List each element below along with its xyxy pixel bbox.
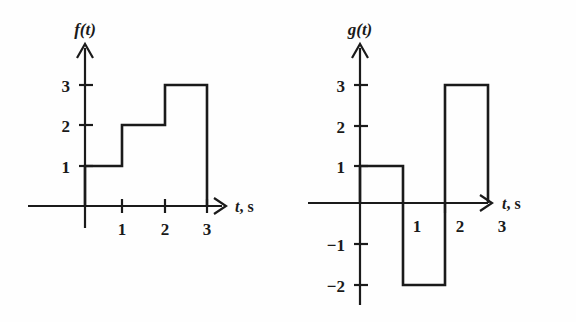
step-curve-f (85, 85, 207, 206)
x-tick-label-3: 3 (203, 220, 212, 239)
y-axis-title-g: g(t) (347, 20, 373, 39)
x-axis-title-f: t, s (235, 198, 254, 215)
x-tick-label-2: 2 (456, 217, 465, 236)
y-axis-title-f: f(t) (74, 20, 96, 39)
x-axis-unit-g: , s (506, 195, 520, 212)
y-tick-label-neg1: −1 (327, 236, 345, 255)
x-tick-label-2: 2 (161, 220, 170, 239)
x-tick-label-1: 1 (413, 217, 422, 236)
y-tick-label-2: 2 (62, 117, 71, 136)
figure-pair: 3 2 1 1 2 3 f(t) t, s (0, 0, 576, 322)
chart-svg-f: 3 2 1 1 2 3 f(t) t, s (0, 0, 288, 322)
x-tick-label-1: 1 (118, 220, 127, 239)
y-tick-label-neg2: −2 (327, 277, 345, 296)
x-tick-label-3: 3 (498, 217, 507, 236)
y-tick-label-3: 3 (337, 77, 346, 96)
chart-panel-f: 3 2 1 1 2 3 f(t) t, s (0, 0, 288, 322)
chart-panel-g: 3 2 1 −1 −2 1 2 3 g(t) t, s (288, 0, 576, 322)
y-tick-label-1: 1 (337, 158, 346, 177)
step-curve-g (360, 85, 488, 285)
y-tick-label-2: 2 (337, 118, 346, 137)
y-tick-label-1: 1 (62, 158, 71, 177)
x-axis-unit-f: , s (239, 198, 253, 215)
y-tick-label-3: 3 (62, 77, 71, 96)
x-axis-title-g: t, s (502, 195, 521, 212)
chart-svg-g: 3 2 1 −1 −2 1 2 3 g(t) t, s (288, 0, 576, 322)
